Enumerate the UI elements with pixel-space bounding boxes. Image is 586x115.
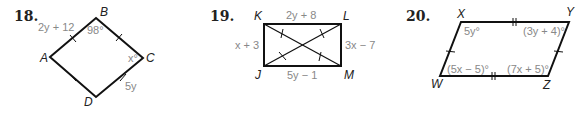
side-cd-label: 5y — [125, 80, 137, 92]
parallelogram-figure: X Y W Z 5y° (3y + 4)° (5x − 5)° (7x + 5)… — [380, 0, 586, 115]
angle-c-label: x° — [128, 52, 138, 64]
problem-19: 19. K L J M 2y + 8 x + 3 3x − 7 5y − 1 — [180, 0, 380, 115]
side-kl-label: 2y + 8 — [286, 9, 316, 21]
angle-z-label: (7x + 5)° — [507, 63, 549, 75]
congruence-tick — [446, 51, 455, 52]
angle-b-label: 98° — [87, 24, 104, 36]
vertex-d: D — [84, 95, 93, 109]
side-jm-label: 5y − 1 — [287, 69, 317, 81]
vertex-x: X — [456, 7, 466, 21]
congruence-tick — [554, 51, 563, 52]
vertex-m: M — [344, 68, 354, 82]
problem-20: 20. X Y W Z 5y° (3y + 4)° (5x − 5)° (7x … — [380, 0, 586, 115]
rhombus-figure: B A C D 2y + 12 98° x° 5y — [0, 0, 180, 115]
vertex-b: B — [100, 5, 108, 19]
congruence-tick — [279, 52, 286, 60]
side-lm-label: 3x − 7 — [345, 39, 375, 51]
side-kj-label: x + 3 — [235, 39, 259, 51]
side-ab-label: 2y + 12 — [38, 21, 74, 33]
angle-x-label: 5y° — [464, 25, 480, 37]
vertex-a: A — [39, 51, 48, 65]
vertex-j: J — [254, 68, 262, 82]
vertex-z: Z — [542, 78, 551, 92]
vertex-l: L — [343, 9, 350, 23]
rectangle-figure: K L J M 2y + 8 x + 3 3x − 7 5y − 1 — [180, 0, 380, 115]
angle-y-label: (3y + 4)° — [523, 25, 565, 37]
angle-w-label: (5x − 5)° — [447, 63, 489, 75]
vertex-w: W — [431, 77, 444, 91]
vertex-c: C — [146, 51, 155, 65]
vertex-k: K — [254, 9, 263, 23]
vertex-y: Y — [566, 5, 575, 19]
congruence-tick — [319, 52, 321, 61]
problem-18: 18. B A C D 2y + 12 98° x° 5y — [0, 0, 180, 115]
congruence-tick — [70, 74, 76, 81]
